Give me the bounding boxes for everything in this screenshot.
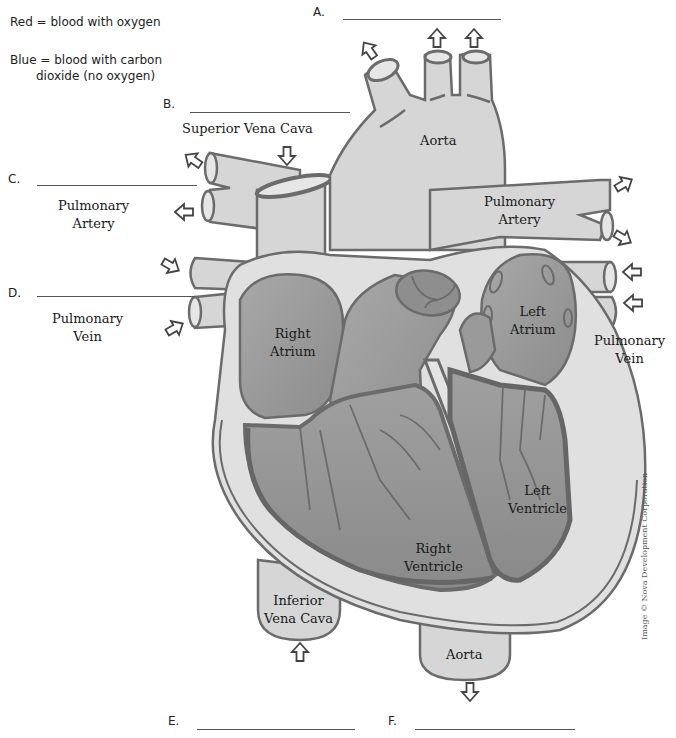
- legend-blue-line1: Blue = blood with carbon: [10, 53, 162, 67]
- label-pulmonary-artery-left: Pulmonary Artery: [58, 197, 129, 233]
- label-line: Vein: [73, 329, 101, 344]
- arrow-icon: [466, 29, 482, 47]
- blank-letter-d: D.: [8, 286, 21, 300]
- blank-letter-b: B.: [163, 97, 175, 111]
- label-aorta-top: Aorta: [420, 132, 456, 150]
- label-pulmonary-vein-left: Pulmonary Vein: [52, 310, 123, 346]
- label-line: Atrium: [270, 344, 315, 359]
- label-line: Right: [416, 541, 452, 556]
- legend-blue: Blue = blood with carbon dioxide (no oxy…: [10, 52, 162, 84]
- label-aorta-bottom: Aorta: [446, 646, 482, 664]
- legend-red: Red = blood with oxygen: [10, 14, 161, 30]
- image-credit: Image © Nova Development Corporation: [640, 473, 649, 640]
- label-inferior-vena-cava: Inferior Vena Cava: [264, 592, 333, 628]
- arrow-icon: [279, 147, 295, 165]
- arrow-icon: [357, 38, 380, 62]
- arrow-icon: [623, 264, 641, 280]
- label-line: Artery: [499, 212, 541, 227]
- label-line: Right: [275, 326, 311, 341]
- blank-line-b[interactable]: [190, 112, 350, 113]
- legend-blue-line2: dioxide (no oxygen): [10, 68, 162, 84]
- arrow-icon: [611, 227, 635, 250]
- blank-line-f[interactable]: [415, 729, 575, 730]
- label-pulmonary-artery-right: Pulmonary Artery: [484, 193, 555, 229]
- label-right-atrium: Right Atrium: [270, 325, 315, 361]
- label-right-ventricle: Right Ventricle: [404, 540, 463, 576]
- arrow-icon: [175, 204, 193, 220]
- arrow-icon: [181, 148, 205, 171]
- label-line: Pulmonary: [594, 333, 665, 348]
- blank-line-c[interactable]: [37, 185, 197, 186]
- label-line: Left: [524, 483, 550, 498]
- label-line: Vein: [615, 351, 643, 366]
- label-line: Artery: [73, 216, 115, 231]
- blank-letter-a: A.: [313, 5, 325, 19]
- arrow-icon: [624, 295, 642, 311]
- label-line: Inferior: [273, 593, 323, 608]
- arrow-icon: [429, 29, 445, 47]
- label-superior-vena-cava: Superior Vena Cava: [182, 120, 313, 138]
- label-line: Atrium: [510, 322, 555, 337]
- label-pulmonary-vein-right: Pulmonary Vein: [594, 332, 665, 368]
- blank-letter-c: C.: [8, 172, 20, 186]
- arrow-icon: [163, 317, 187, 340]
- label-line: Pulmonary: [58, 198, 129, 213]
- blank-line-a[interactable]: [343, 19, 501, 20]
- label-line: Vena Cava: [264, 611, 333, 626]
- label-line: Left: [520, 304, 546, 319]
- label-line: Pulmonary: [52, 311, 123, 326]
- blank-letter-e: E.: [168, 714, 179, 728]
- label-left-atrium: Left Atrium: [510, 303, 555, 339]
- blank-line-d[interactable]: [37, 296, 195, 297]
- blank-line-e[interactable]: [197, 729, 355, 730]
- arrow-icon: [612, 173, 636, 196]
- arrow-icon: [462, 683, 478, 701]
- label-line: Ventricle: [508, 501, 567, 516]
- arrow-icon: [292, 643, 308, 661]
- label-line: Ventricle: [404, 559, 463, 574]
- blank-letter-f: F.: [388, 714, 397, 728]
- heart-diagram: [0, 0, 676, 738]
- arrow-icon: [159, 255, 183, 278]
- label-left-ventricle: Left Ventricle: [508, 482, 567, 518]
- label-line: Pulmonary: [484, 194, 555, 209]
